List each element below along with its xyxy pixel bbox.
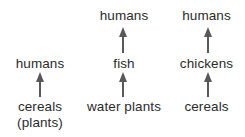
arrow-up-icon (118, 72, 129, 97)
chain2-middle-node: fish (82, 56, 166, 71)
arrow-shaft (122, 35, 124, 53)
chain2-top-node: humans (82, 8, 166, 23)
chain3-top-node: humans (168, 8, 245, 23)
food-chain-diagram: humans cereals (plants) humans fish wate… (0, 0, 245, 137)
arrow-shaft (39, 80, 41, 97)
food-chain-column-2: humans fish water plants (82, 0, 166, 137)
arrow-shaft (207, 35, 209, 53)
chain3-middle-node: chickens (168, 56, 245, 71)
arrow-up-icon (203, 72, 214, 97)
food-chain-column-3: humans chickens cereals (168, 0, 245, 137)
chain1-bottom-node: cereals (plants) (0, 99, 80, 131)
arrow-up-icon (35, 72, 46, 97)
arrow-up-icon (118, 27, 129, 53)
arrow-shaft (122, 80, 124, 97)
food-chain-column-1: humans cereals (plants) (0, 0, 80, 137)
chain2-bottom-node: water plants (82, 99, 166, 114)
chain3-bottom-node: cereals (168, 99, 245, 114)
arrow-shaft (207, 80, 209, 97)
chain1-bottom-node-label: cereals (18, 99, 62, 114)
chain1-top-node: humans (0, 56, 80, 71)
chain1-bottom-node-sublabel: (plants) (0, 114, 80, 131)
arrow-up-icon (203, 27, 214, 53)
